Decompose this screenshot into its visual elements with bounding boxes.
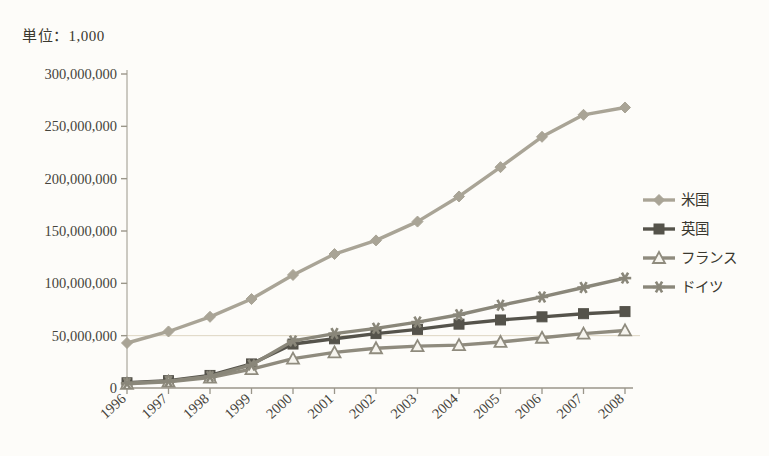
marker-diamond bbox=[329, 249, 340, 260]
legend-item-0[interactable]: 米国 bbox=[643, 192, 709, 208]
marker-diamond bbox=[205, 311, 216, 322]
x-tick-label: 2003 bbox=[387, 390, 419, 421]
marker-star bbox=[577, 282, 589, 293]
chart-container: 単位：1,000 050,000,000100,000,000150,000,0… bbox=[0, 0, 769, 456]
y-tick-label: 100,000,000 bbox=[45, 275, 118, 291]
series-3 bbox=[121, 273, 631, 389]
y-tick-label: 250,000,000 bbox=[45, 118, 118, 134]
x-tick-label: 2002 bbox=[346, 390, 378, 421]
marker-diamond bbox=[620, 102, 631, 113]
x-tick-label: 2001 bbox=[304, 390, 336, 421]
marker-diamond bbox=[122, 337, 133, 348]
marker-square bbox=[654, 224, 664, 234]
marker-star bbox=[536, 292, 548, 303]
x-tick-label: 2007 bbox=[553, 390, 585, 421]
legend-item-1[interactable]: 英国 bbox=[643, 220, 709, 237]
marker-star bbox=[453, 309, 465, 320]
marker-square bbox=[620, 307, 630, 317]
marker-square bbox=[496, 315, 506, 325]
y-tick-label: 200,000,000 bbox=[45, 171, 118, 187]
marker-star bbox=[619, 273, 631, 284]
marker-star bbox=[653, 282, 665, 293]
marker-diamond bbox=[371, 235, 382, 246]
x-tick-label: 2004 bbox=[429, 390, 462, 422]
x-tick-label: 1998 bbox=[180, 390, 212, 421]
marker-square bbox=[579, 309, 589, 319]
marker-star bbox=[494, 300, 506, 311]
y-tick-label: 300,000,000 bbox=[45, 66, 118, 82]
x-tick-label: 2006 bbox=[512, 390, 544, 421]
x-tick-label: 2005 bbox=[470, 390, 502, 421]
marker-square bbox=[537, 312, 547, 322]
x-tick-label: 1999 bbox=[221, 390, 253, 421]
legend-label: 英国 bbox=[681, 220, 709, 237]
marker-diamond bbox=[654, 195, 665, 206]
series-0 bbox=[122, 102, 631, 349]
y-tick-label: 150,000,000 bbox=[45, 223, 118, 239]
x-tick-label: 2000 bbox=[263, 390, 295, 421]
x-tick-label: 2008 bbox=[595, 390, 627, 421]
legend-label: ドイツ bbox=[681, 279, 723, 295]
series-line bbox=[127, 107, 625, 343]
x-tick-label: 1997 bbox=[138, 390, 170, 421]
legend-label: フランス bbox=[681, 250, 737, 266]
marker-square bbox=[454, 319, 464, 329]
line-chart-plot: 050,000,000100,000,000150,000,000200,000… bbox=[0, 0, 769, 456]
legend-item-3[interactable]: ドイツ bbox=[643, 279, 723, 295]
legend-label: 米国 bbox=[681, 192, 709, 208]
legend-item-2[interactable]: フランス bbox=[643, 250, 737, 266]
x-tick-label: 1996 bbox=[97, 390, 129, 421]
y-tick-label: 50,000,000 bbox=[52, 328, 117, 344]
